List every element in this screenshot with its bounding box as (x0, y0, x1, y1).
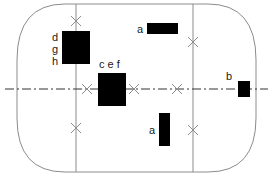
cross-markers (71, 16, 198, 135)
block-dgh (62, 31, 90, 64)
label-d: d (52, 31, 58, 43)
block-a-top (147, 23, 178, 34)
block-b (238, 81, 250, 97)
label-b: b (226, 70, 232, 82)
label-a-bottom: a (149, 124, 156, 136)
component-layout-diagram: d g h c e f a a b (0, 0, 272, 179)
label-g: g (52, 43, 58, 55)
block-a-bottom (159, 113, 170, 146)
label-a-top: a (137, 23, 144, 35)
block-cef (98, 73, 126, 106)
label-cef: c e f (99, 58, 121, 70)
label-h: h (52, 55, 58, 67)
